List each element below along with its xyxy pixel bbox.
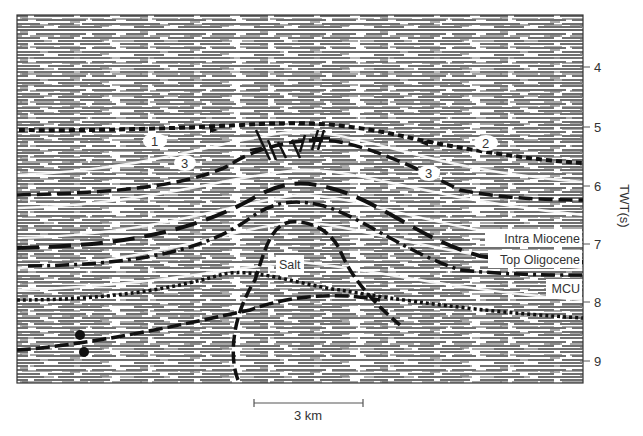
well-marker-top-icon xyxy=(75,330,85,340)
label-3-right: 3 xyxy=(425,166,432,181)
label-1: 1 xyxy=(151,134,158,149)
tick-7: 7 xyxy=(594,237,601,252)
axis-title: TWT(s) xyxy=(617,184,632,227)
seismic-reflectors xyxy=(17,15,583,383)
label-2: 2 xyxy=(482,136,489,151)
tick-9: 9 xyxy=(594,354,601,369)
seismic-section-figure: Intra Miocene Top Oligocene MCU Salt 1 2… xyxy=(0,0,643,436)
tick-4: 4 xyxy=(594,60,601,75)
scale-bar-label: 3 km xyxy=(294,408,322,423)
mcu-label: MCU xyxy=(552,282,580,296)
tick-8: 8 xyxy=(594,295,601,310)
salt-label: Salt xyxy=(279,258,301,272)
label-3-left: 3 xyxy=(181,156,188,171)
tick-5: 5 xyxy=(594,120,601,135)
well-marker-bottom-icon xyxy=(79,347,89,357)
top-oligocene-label: Top Oligocene xyxy=(500,253,580,267)
tick-6: 6 xyxy=(594,179,601,194)
scale-bar: 3 km xyxy=(254,399,363,423)
twt-axis: 4 5 6 7 8 9 TWT(s) xyxy=(583,60,632,369)
intra-miocene-label: Intra Miocene xyxy=(504,232,580,246)
